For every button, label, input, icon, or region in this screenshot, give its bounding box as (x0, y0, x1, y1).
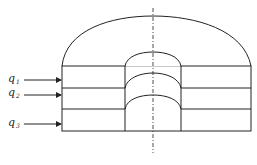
outer-body (62, 66, 251, 131)
flow-label-3: q3 (8, 116, 20, 129)
layered-flow-diagram: q1 q2 q3 (0, 0, 257, 165)
flow-label-1: q1 (8, 72, 20, 85)
flow-label-2: q2 (8, 86, 20, 99)
